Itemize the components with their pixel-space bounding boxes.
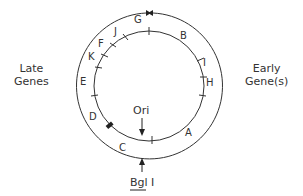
late-label-line1: Late xyxy=(14,62,49,75)
late-genes-label: Late Genes xyxy=(14,62,49,88)
segment-b: B xyxy=(180,30,187,41)
segment-h: H xyxy=(206,77,214,88)
early-label-line2: Gene(s) xyxy=(245,75,288,88)
segment-f: F xyxy=(98,38,104,49)
segment-c: C xyxy=(119,142,126,153)
late-label-line2: Genes xyxy=(14,75,49,88)
bgl-site-label: Bgl I xyxy=(130,177,154,188)
segment-d: D xyxy=(89,111,97,122)
segment-j: J xyxy=(114,26,117,37)
segment-i: I xyxy=(203,57,206,68)
segment-a: A xyxy=(185,127,192,138)
segment-g: G xyxy=(134,14,142,25)
arrowhead-right-icon xyxy=(148,10,153,16)
segment-e: E xyxy=(80,76,86,87)
early-label-line1: Early xyxy=(245,62,288,75)
genome-map xyxy=(0,0,303,196)
ori-label: Ori xyxy=(133,105,149,116)
early-genes-label: Early Gene(s) xyxy=(245,62,288,88)
segment-k: K xyxy=(88,51,95,62)
ori-arrow-icon xyxy=(139,129,145,136)
